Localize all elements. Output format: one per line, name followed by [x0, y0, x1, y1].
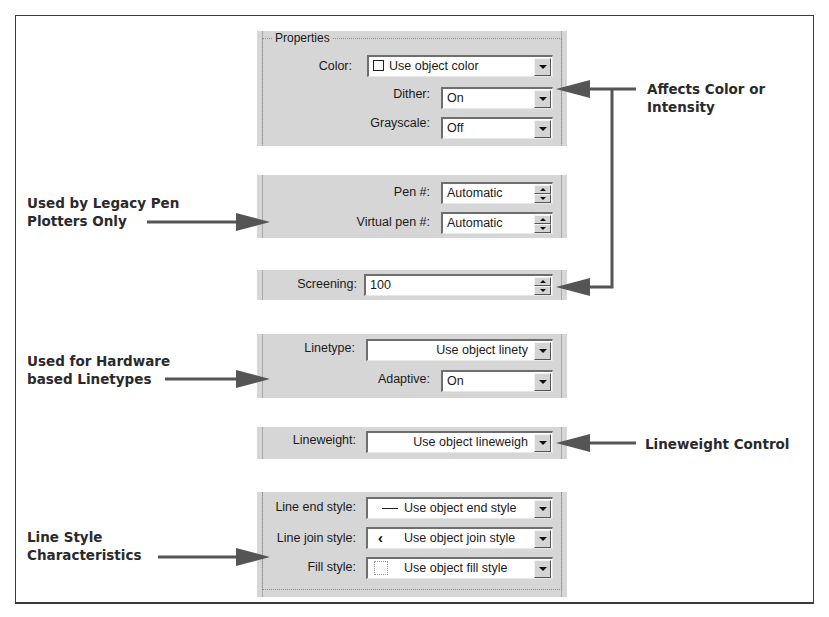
callout-arrows: [0, 0, 829, 617]
